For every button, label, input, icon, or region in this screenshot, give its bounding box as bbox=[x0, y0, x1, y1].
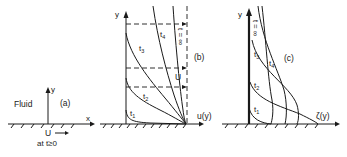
wall-hatch-b bbox=[103, 124, 186, 128]
wall-hatch-a bbox=[11, 124, 74, 128]
zeta-axis-arrow-icon bbox=[335, 122, 340, 127]
diagram: x y Fluid (a) U at t≥0 u(y) bbox=[0, 0, 347, 157]
arrow-icon bbox=[182, 22, 187, 26]
t2-label-c: t2 bbox=[254, 81, 259, 91]
curve-t1-c bbox=[249, 108, 271, 124]
panel-a: x y Fluid (a) U at t≥0 bbox=[8, 85, 95, 148]
infinity-label-c: t = ∞ bbox=[251, 20, 260, 36]
curve-t2-c bbox=[250, 82, 318, 124]
x-axis-label-a: x bbox=[86, 114, 90, 123]
t4-label-b: t4 bbox=[160, 30, 165, 40]
velocity-arrow-icon bbox=[65, 131, 69, 135]
time-condition: at t≥0 bbox=[37, 139, 58, 148]
x-arrow-icon bbox=[90, 122, 95, 127]
panel-c: ζ(y) y t = ∞ (c) t1 t2 t3 t4 bbox=[222, 6, 340, 128]
x-axis-label-b: u(y) bbox=[197, 111, 212, 121]
y-arrow-icon bbox=[246, 8, 252, 16]
x-axis-label-c: ζ(y) bbox=[316, 111, 330, 121]
panel-b-label: (b) bbox=[194, 52, 205, 62]
arrow-icon bbox=[182, 85, 187, 89]
y-arrow-icon bbox=[46, 87, 51, 93]
panel-c-label: (c) bbox=[284, 53, 294, 63]
wall-velocity-label: U bbox=[45, 128, 51, 138]
t1-label-c: t1 bbox=[254, 105, 259, 115]
y-axis-label-c: y bbox=[238, 10, 242, 19]
y-arrow-icon bbox=[124, 11, 129, 18]
panel-a-label: (a) bbox=[60, 98, 71, 108]
t2-label-b: t2 bbox=[143, 92, 148, 102]
infinity-label-b: t = ∞ bbox=[176, 28, 185, 45]
t3-label-b: t3 bbox=[139, 44, 144, 54]
t3-label-c: t3 bbox=[254, 50, 259, 60]
arrow-icon bbox=[182, 66, 187, 70]
t1-label-b: t1 bbox=[130, 109, 135, 119]
panel-b: u(y) y t = ∞ U (b) t1 t2 t3 t4 bbox=[100, 6, 212, 128]
u-axis-arrow-icon bbox=[199, 122, 204, 127]
y-axis-label-b: y bbox=[115, 10, 119, 19]
wall-hatch-c bbox=[225, 124, 318, 128]
fluid-label: Fluid bbox=[14, 99, 33, 109]
y-axis-label-a: y bbox=[51, 85, 55, 94]
